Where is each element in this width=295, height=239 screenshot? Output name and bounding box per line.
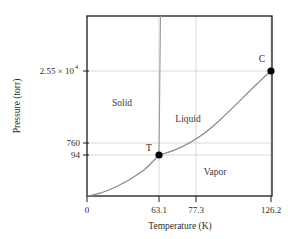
x-axis-title: Temperature (K) — [148, 221, 211, 232]
xtick-label-77: 77.3 — [188, 205, 204, 215]
critical-point-label: C — [259, 54, 265, 64]
phase-diagram-figure: T C Solid Liquid Vapor 2.55 × 10 4 760 9… — [0, 0, 295, 239]
critical-point-marker — [267, 67, 274, 74]
triple-point-label: T — [146, 143, 152, 153]
triple-point-marker — [155, 151, 162, 158]
chart-background — [0, 0, 295, 239]
phase-diagram-chart: T C Solid Liquid Vapor 2.55 × 10 4 760 9… — [0, 0, 295, 239]
xtick-label-0: 0 — [85, 205, 90, 215]
region-label-vapor: Vapor — [204, 167, 228, 177]
ytick-label-94: 94 — [71, 150, 81, 160]
xtick-label-126: 126.2 — [261, 205, 281, 215]
y-axis-title: Pressure (torr) — [12, 79, 23, 134]
region-label-liquid: Liquid — [175, 114, 201, 124]
xtick-label-63: 63.1 — [151, 205, 167, 215]
region-label-solid: Solid — [112, 98, 132, 108]
ytick-label-critical: 2.55 × 10 — [40, 66, 75, 76]
ytick-label-760: 760 — [67, 138, 81, 148]
